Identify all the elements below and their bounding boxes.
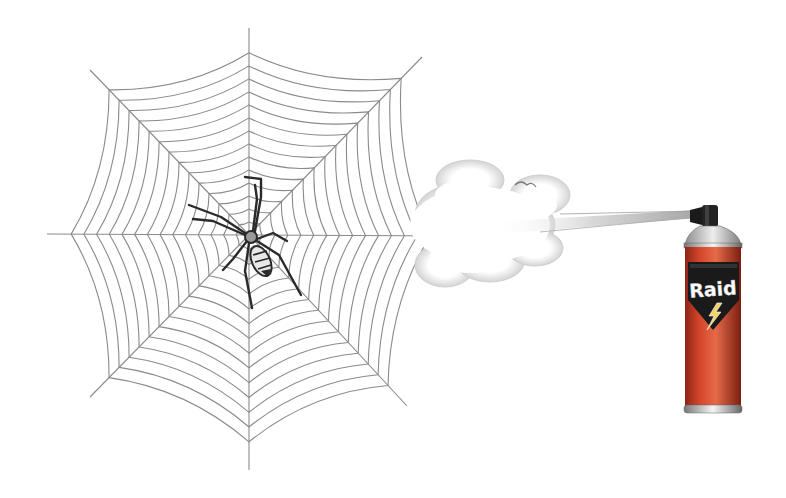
raid-spray-can: Raid bbox=[684, 205, 742, 413]
web-ring bbox=[97, 79, 405, 412]
spider-head bbox=[245, 231, 257, 243]
can-shoulder bbox=[685, 226, 741, 244]
illustration-scene: Raid bbox=[0, 0, 786, 498]
web-ring bbox=[71, 53, 430, 442]
spider-leg bbox=[223, 241, 247, 270]
brand-logo: Raid bbox=[688, 276, 737, 301]
web-ring bbox=[84, 66, 417, 427]
nozzle-cap bbox=[690, 205, 718, 227]
